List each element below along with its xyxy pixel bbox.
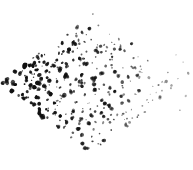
dot-pattern-image [0,0,193,170]
dot-scatter-canvas [0,0,193,170]
